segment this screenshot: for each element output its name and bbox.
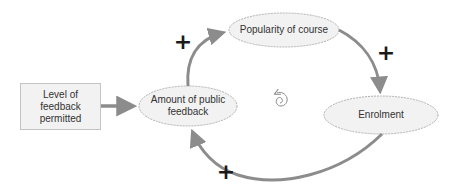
enrolment-label: Enrolment	[324, 96, 438, 134]
level-label-line-3: permitted	[40, 113, 82, 125]
level-of-feedback-label: Level of feedback permitted	[20, 83, 101, 130]
amount-label-line-2: feedback	[168, 106, 209, 118]
popularity-label-line-1: Popularity of course	[240, 24, 328, 36]
level-label-line-1: Level of	[43, 89, 78, 101]
arrow-popularity-to-enrolment	[339, 30, 380, 90]
amount-label-line-1: Amount of public	[151, 94, 226, 106]
popularity-of-course-label: Popularity of course	[229, 13, 339, 47]
level-label-line-2: feedback	[40, 101, 81, 113]
polarity-amount-to-popularity: +	[173, 31, 193, 53]
reinforcing-loop-spiral-icon	[276, 92, 287, 106]
causal-loop-diagram: Level of feedback permitted Amount of pu…	[0, 0, 456, 194]
polarity-enrolment-to-amount: +	[216, 161, 236, 183]
amount-of-public-feedback-label: Amount of public feedback	[139, 86, 237, 126]
polarity-popularity-to-enrolment: +	[376, 42, 396, 64]
enrolment-label-line-1: Enrolment	[358, 109, 404, 121]
